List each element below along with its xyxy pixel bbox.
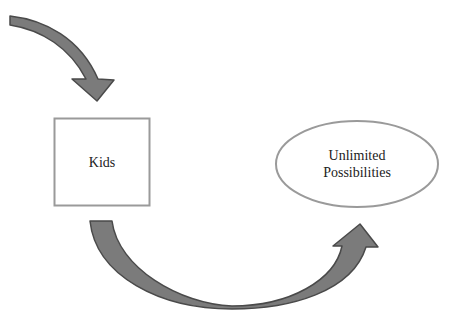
kids-label: Kids bbox=[54, 118, 150, 206]
incoming-arrow bbox=[10, 16, 114, 101]
unlimited-text: Unlimited bbox=[329, 147, 386, 164]
unlimited-possibilities-label: Unlimited Possibilities bbox=[276, 121, 438, 207]
kids-text: Kids bbox=[89, 154, 115, 171]
possibilities-text: Possibilities bbox=[323, 164, 391, 181]
u-arrow bbox=[90, 221, 378, 309]
